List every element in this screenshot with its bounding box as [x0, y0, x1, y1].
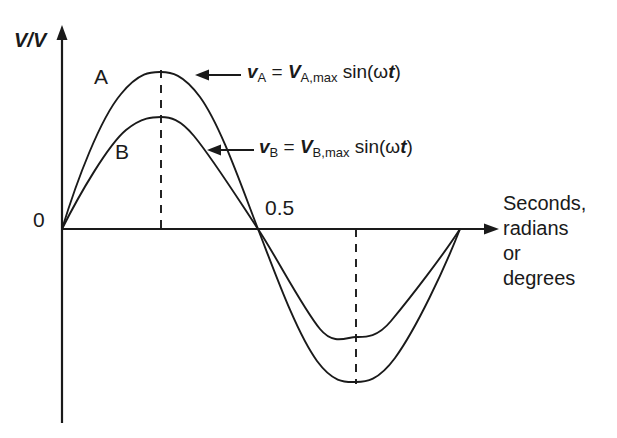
- equation-a-close-paren: ): [395, 61, 401, 82]
- equation-b-sin: sin(: [349, 136, 385, 157]
- leader-arrow-b-icon: [207, 145, 254, 156]
- equation-a-V-subscript: A,max: [301, 70, 338, 85]
- equation-a-omega: ω: [373, 61, 388, 82]
- equation-b-V: V: [300, 136, 313, 157]
- equation-a-sin: sin(: [337, 61, 373, 82]
- leader-arrow-a-icon: [195, 70, 241, 81]
- equation-a-equals: =: [266, 61, 288, 82]
- equation-b-omega: ω: [385, 136, 400, 157]
- origin-label: 0: [33, 209, 45, 230]
- equation-b-V-subscript: B,max: [313, 145, 350, 160]
- equation-a-v-subscript: A: [258, 70, 267, 85]
- equation-b-close-paren: ): [407, 136, 413, 157]
- equation-b-equals: =: [278, 136, 300, 157]
- equation-b-v: v: [259, 136, 270, 157]
- x-axis-label: Seconds, radians or degrees: [503, 191, 586, 291]
- x-axis-label-line-3: or: [503, 241, 586, 266]
- equation-a-V: V: [288, 61, 301, 82]
- equation-b: vB = VB,max sin(ωt): [259, 137, 413, 159]
- equation-a-v: v: [247, 61, 258, 82]
- x-axis-label-line-2: radians: [503, 216, 586, 241]
- y-axis-label: V/V: [14, 30, 46, 50]
- equation-a: vA = VA,max sin(ωt): [247, 62, 401, 84]
- x-tick-label-half: 0.5: [265, 197, 294, 218]
- curve-label-b: B: [115, 141, 129, 162]
- curve-label-a: A: [94, 66, 108, 87]
- x-axis: [62, 224, 499, 235]
- y-axis: [57, 25, 68, 423]
- curve-a-path: [62, 72, 460, 382]
- equation-b-v-subscript: B: [270, 145, 279, 160]
- x-axis-label-line-1: Seconds,: [503, 191, 586, 216]
- figure-canvas: V/V 0 0.5 A B vA = VA,max sin(ωt) vB = V…: [0, 0, 617, 438]
- x-axis-label-line-4: degrees: [503, 266, 586, 291]
